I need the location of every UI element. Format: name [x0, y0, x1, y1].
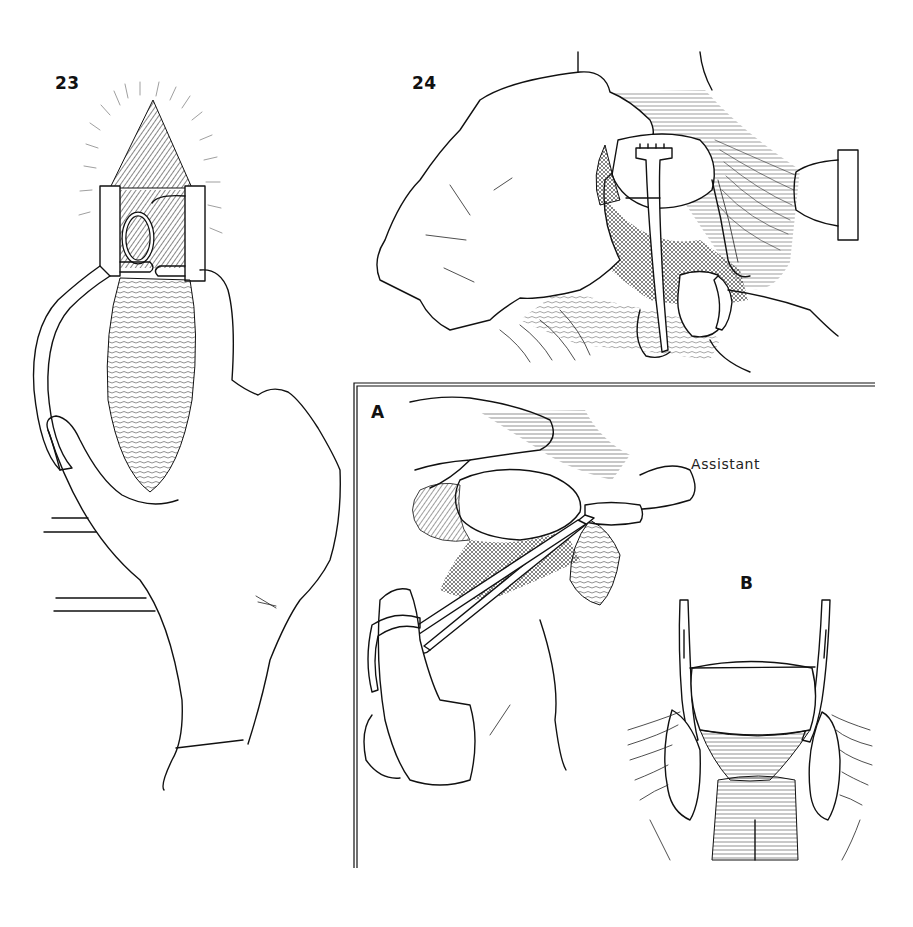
figure-24 — [377, 52, 858, 372]
inset-a — [364, 397, 695, 785]
figure-23 — [34, 82, 341, 790]
illustration-plate: 23 24 A B Assistant — [0, 0, 913, 927]
inset-b — [628, 600, 872, 860]
line-art — [0, 0, 913, 927]
